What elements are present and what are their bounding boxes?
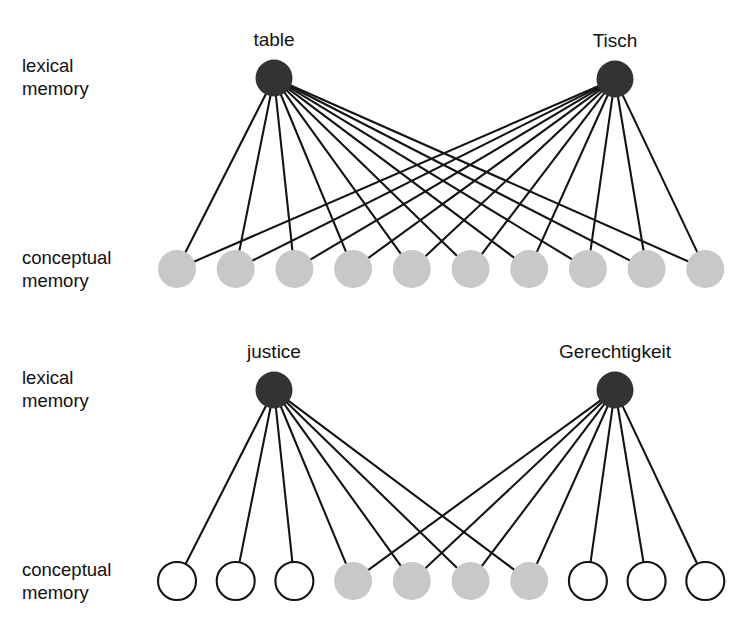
concept-node-shared[interactable] — [334, 562, 372, 600]
lexical-node-tisch[interactable] — [597, 61, 634, 98]
row-label-conceptual-memory-bottom-line1: conceptual — [22, 559, 111, 580]
row-label-lexical-memory-bottom-line1: lexical — [22, 367, 73, 388]
lexical-node-gerechtigkeit[interactable] — [597, 372, 634, 409]
lexical-node-justice[interactable] — [256, 372, 293, 409]
concept-node-shared[interactable] — [686, 250, 724, 288]
row-label-conceptual-memory-top-line2: memory — [22, 270, 90, 291]
row-label-lexical-memory-bottom-line2: memory — [22, 390, 90, 411]
concept-node-shared[interactable] — [569, 250, 607, 288]
row-label-lexical-memory-top-line2: memory — [22, 78, 90, 99]
concept-node-shared[interactable] — [510, 250, 548, 288]
concept-node-unshared[interactable] — [158, 562, 196, 600]
row-label-conceptual-memory-bottom-line2: memory — [22, 582, 90, 603]
concept-node-shared[interactable] — [628, 250, 666, 288]
row-label-conceptual-memory-top-line1: conceptual — [22, 247, 111, 268]
concept-node-shared[interactable] — [275, 250, 313, 288]
row-label-lexical-memory-top-line1: lexical — [22, 55, 73, 76]
concept-node-shared[interactable] — [217, 250, 255, 288]
concept-node-shared[interactable] — [393, 250, 431, 288]
word-label-table: table — [253, 29, 294, 50]
concept-node-shared[interactable] — [158, 250, 196, 288]
concept-node-unshared[interactable] — [569, 562, 607, 600]
concept-node-shared[interactable] — [452, 250, 490, 288]
concept-node-shared[interactable] — [334, 250, 372, 288]
word-label-justice: justice — [246, 341, 301, 362]
concept-node-unshared[interactable] — [275, 562, 313, 600]
word-label-tisch: Tisch — [593, 30, 638, 51]
concept-node-unshared[interactable] — [628, 562, 666, 600]
concept-node-unshared[interactable] — [686, 562, 724, 600]
concept-node-shared[interactable] — [393, 562, 431, 600]
concept-node-shared[interactable] — [452, 562, 490, 600]
word-label-gerechtigkeit: Gerechtigkeit — [559, 341, 672, 362]
memory-representation-diagram: table Tisch lexical memory conceptual me… — [0, 0, 755, 637]
concept-node-unshared[interactable] — [217, 562, 255, 600]
lexical-node-table[interactable] — [256, 60, 293, 97]
diagram-background — [0, 0, 755, 637]
concept-node-shared[interactable] — [510, 562, 548, 600]
